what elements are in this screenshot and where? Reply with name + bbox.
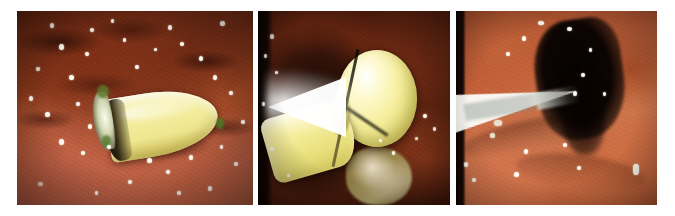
panel-c-vignette [456, 11, 657, 205]
panel-b-vignette [258, 11, 450, 205]
endoscopy-figure-strip [17, 11, 657, 205]
panel-c-instrument-in-lumen [456, 11, 657, 205]
panel-b-capsule-close-up [258, 11, 450, 205]
panel-a-vignette [17, 11, 253, 205]
panel-a-capsule-on-mucosa [17, 11, 253, 205]
